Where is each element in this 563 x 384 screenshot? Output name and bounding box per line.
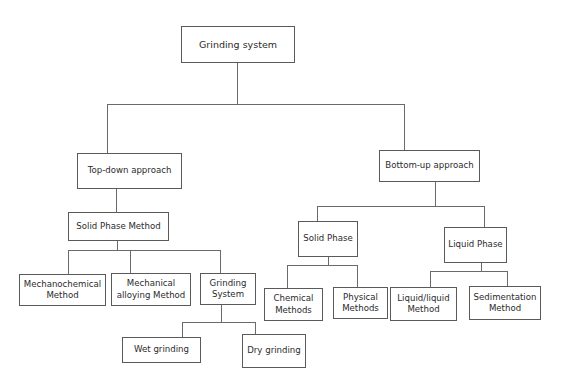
connector	[435, 181, 436, 206]
connector	[220, 250, 221, 273]
connector	[182, 322, 183, 337]
connector	[182, 322, 256, 323]
connector	[404, 104, 405, 150]
connector	[221, 304, 222, 322]
connector	[481, 262, 482, 271]
node-sedimentation-method: Sedimentation Method	[469, 286, 541, 320]
node-solid-phase-method: Solid Phase Method	[68, 212, 169, 241]
connector	[317, 206, 318, 221]
node-liquid-phase: Liquid Phase	[444, 227, 507, 263]
node-mechanical-alloying-method: Mechanical alloying Method	[111, 273, 191, 306]
connector	[107, 104, 108, 153]
connector	[117, 240, 118, 250]
node-wet-grinding: Wet grinding	[122, 337, 201, 363]
node-grinding-system: Grinding system	[181, 26, 295, 63]
node-top-down-approach: Top-down approach	[77, 153, 182, 189]
connector	[287, 265, 288, 288]
connector	[237, 62, 238, 104]
node-solid-phase: Solid Phase	[298, 221, 358, 257]
connector	[130, 250, 131, 273]
connector	[255, 322, 256, 334]
connector	[484, 206, 485, 227]
connector	[68, 250, 221, 251]
connector	[357, 265, 358, 287]
node-physical-methods: Physical Methods	[333, 287, 388, 319]
connector	[68, 250, 69, 274]
node-grinding-subsystem: Grinding System	[200, 273, 256, 305]
node-mechanochemical-method: Mechanochemical Method	[19, 274, 106, 306]
connector	[430, 271, 508, 272]
node-bottom-up-approach: Bottom-up approach	[379, 150, 480, 182]
connector	[116, 188, 117, 212]
connector	[287, 265, 358, 266]
connector	[507, 271, 508, 286]
tree-diagram: Grinding system Top-down approach Bottom…	[0, 0, 563, 384]
node-liquid-liquid-method: Liquid/liquid Method	[390, 287, 457, 321]
connector	[430, 271, 431, 287]
connector	[317, 206, 485, 207]
node-chemical-methods: Chemical Methods	[264, 288, 323, 321]
node-dry-grinding: Dry grinding	[242, 334, 306, 368]
connector	[107, 104, 404, 105]
connector	[328, 256, 329, 265]
